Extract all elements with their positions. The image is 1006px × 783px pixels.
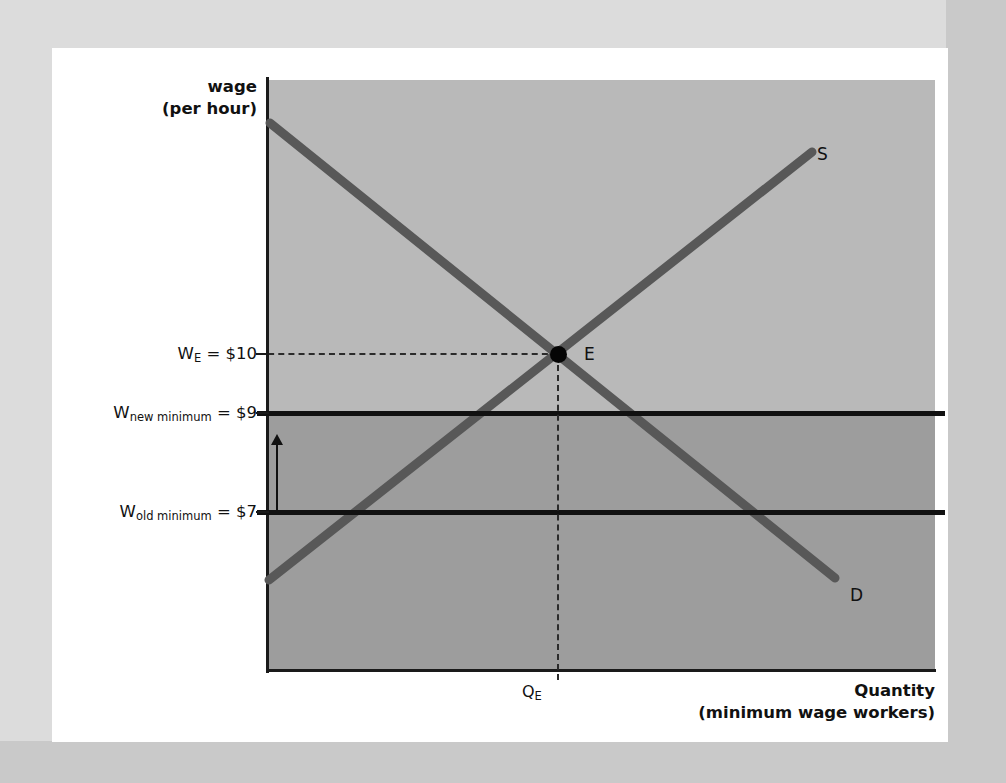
tick-equilibrium-wage: [256, 353, 269, 355]
equilibrium-point-label: E: [584, 344, 595, 364]
new-minimum-wage-prefix: W: [113, 403, 129, 422]
old-minimum-wage-prefix: W: [120, 502, 136, 521]
supply-curve-line: [269, 152, 812, 580]
new-minimum-wage-label: Wnew minimum = $9: [52, 403, 257, 422]
wage-increase-arrow-head: [271, 434, 283, 445]
tick-new-minimum-wage: [256, 412, 269, 414]
old-minimum-wage-line: [257, 510, 945, 515]
supply-curve-label: S: [817, 144, 828, 164]
demand-curve-label: D: [850, 585, 863, 605]
tick-old-minimum-wage: [256, 511, 269, 513]
old-minimum-wage-value: = $7: [212, 502, 257, 521]
curves-layer: [52, 48, 948, 742]
new-minimum-wage-line: [257, 411, 945, 416]
equilibrium-wage-subscript: E: [194, 351, 201, 365]
equilibrium-quantity-dashed-line: [557, 355, 559, 680]
x-axis-title-line1: Quantity: [552, 680, 935, 702]
old-minimum-wage-label: Wold minimum = $7: [52, 502, 257, 521]
y-axis-title: wage (per hour): [52, 76, 257, 121]
equilibrium-wage-label: WE = $10: [52, 344, 257, 363]
figure-card: E S D QE wage (per hour) Quantity (minim…: [52, 48, 948, 742]
new-minimum-wage-value: = $9: [212, 403, 257, 422]
x-axis-title-line2: (minimum wage workers): [552, 702, 935, 724]
equilibrium-wage-prefix: W: [178, 344, 194, 363]
x-axis-title: Quantity (minimum wage workers): [552, 680, 935, 725]
equilibrium-quantity-subscript: E: [535, 689, 542, 703]
y-axis-title-line2: (per hour): [52, 98, 257, 120]
equilibrium-point-marker: [550, 346, 567, 363]
y-axis-title-line1: wage: [52, 76, 257, 98]
page-background-bottom: [0, 741, 1006, 783]
equilibrium-wage-dashed-line: [258, 353, 558, 355]
equilibrium-quantity-label: QE: [522, 682, 542, 701]
new-minimum-wage-subscript: new minimum: [130, 410, 212, 424]
supply-demand-figure: E S D QE wage (per hour) Quantity (minim…: [52, 48, 948, 742]
equilibrium-wage-value: = $10: [201, 344, 257, 363]
wage-increase-arrow-shaft: [276, 436, 278, 510]
old-minimum-wage-subscript: old minimum: [136, 509, 212, 523]
equilibrium-quantity-letter: Q: [522, 682, 535, 701]
